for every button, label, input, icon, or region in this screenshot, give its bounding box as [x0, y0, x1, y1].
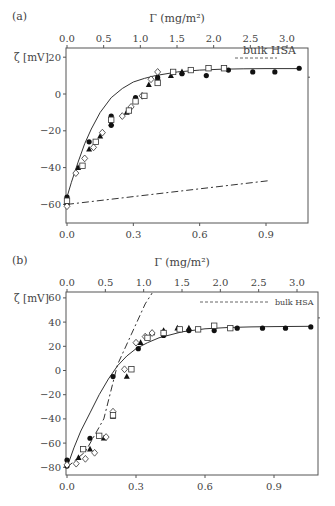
marker-open-diamond: [122, 366, 128, 373]
x-bottom-tick-label: 0.0: [59, 481, 75, 492]
x-top-tick-label: 1.0: [132, 33, 148, 44]
marker-open-square: [212, 323, 217, 328]
bulk-HSA-reference-line: [67, 293, 152, 467]
x-top-tick-label: 1.5: [174, 277, 190, 288]
marker-filled-triangle: [124, 373, 130, 379]
marker-filled-circle: [204, 73, 209, 78]
marker-open-diamond: [133, 339, 139, 346]
marker-open-square: [126, 108, 131, 113]
marker-filled-circle: [308, 324, 313, 329]
marker-open-diamond: [92, 449, 98, 456]
y-tick-label: 20: [48, 341, 61, 352]
x-bottom-tick-label: 0.0: [59, 229, 75, 240]
x-top-tick-label: 3.0: [289, 277, 305, 288]
marker-open-square: [145, 335, 150, 340]
marker-filled-circle: [110, 374, 115, 379]
marker-filled-circle: [87, 436, 92, 441]
marker-filled-circle: [250, 69, 255, 74]
marker-open-square: [221, 66, 226, 71]
y-tick-label: −60: [40, 438, 61, 449]
x-top-tick-label: 1.5: [169, 33, 185, 44]
legend-label: bulk HSA: [275, 298, 314, 307]
x-top-tick-label: 0.5: [96, 33, 112, 44]
y-axis-label: ζ [mV]: [14, 51, 49, 63]
marker-open-square: [195, 327, 200, 332]
marker-open-square: [80, 163, 85, 168]
y-tick-label: 0: [55, 89, 61, 100]
marker-filled-circle: [235, 326, 240, 331]
chart-panel-0: (a)Γ (mg/m²)ζ [mV]200−20−40−600.00.30.60…: [12, 10, 310, 240]
marker-filled-triangle: [186, 325, 192, 331]
top-axis-title: Γ (mg/m²): [149, 12, 205, 25]
marker-open-diamond: [91, 144, 97, 151]
x-top-tick-label: 0.5: [97, 277, 113, 288]
legend-label: bulk HSA: [243, 44, 297, 57]
marker-open-square: [109, 117, 114, 122]
y-tick-label: −20: [40, 125, 61, 136]
x-bottom-tick-label: 0.9: [258, 229, 274, 240]
x-bottom-tick-label: 0.6: [192, 229, 208, 240]
marker-open-square: [188, 67, 193, 72]
marker-open-square: [206, 66, 211, 71]
y-tick-label: −40: [40, 413, 61, 424]
marker-open-square: [170, 69, 175, 74]
marker-open-square: [64, 198, 69, 203]
marker-filled-circle: [272, 69, 277, 74]
y-tick-label: −60: [40, 199, 61, 210]
marker-open-square: [110, 413, 115, 418]
marker-open-square: [97, 433, 102, 438]
y-tick-label: 0: [55, 365, 61, 376]
marker-filled-circle: [136, 346, 141, 351]
marker-open-square: [161, 330, 166, 335]
x-top-tick-label: 0.0: [59, 277, 75, 288]
chart-panel-1: (b)Γ (mg/m²)ζ [mV]6040200−20−40−60−800.0…: [12, 254, 320, 492]
marker-filled-triangle: [87, 446, 93, 452]
y-tick-label: −20: [40, 389, 61, 400]
model-fit-line: [67, 326, 311, 467]
marker-filled-circle: [283, 326, 288, 331]
marker-open-square: [80, 446, 85, 451]
marker-open-square: [93, 139, 98, 144]
marker-open-square: [142, 93, 147, 98]
y-tick-label: −80: [40, 462, 61, 473]
marker-open-square: [155, 80, 160, 85]
marker-open-square: [177, 327, 182, 332]
x-bottom-tick-label: 0.6: [197, 481, 213, 492]
y-axis-label: ζ [mV]: [14, 292, 49, 304]
y-tick-label: −40: [40, 162, 61, 173]
bulk-HSA-reference-line: [67, 181, 270, 205]
figure: (a)Γ (mg/m²)ζ [mV]200−20−40−600.00.30.60…: [0, 0, 335, 506]
x-bottom-tick-label: 0.9: [266, 481, 282, 492]
y-tick-label: 20: [48, 52, 61, 63]
panel-label: (b): [12, 254, 28, 267]
marker-open-diamond: [82, 455, 88, 462]
x-top-tick-label: 2.5: [251, 277, 267, 288]
x-top-tick-label: 1.0: [136, 277, 152, 288]
marker-open-square: [133, 99, 138, 104]
top-axis-title: Γ (mg/m²): [154, 256, 210, 269]
x-top-tick-label: 0.0: [59, 33, 75, 44]
marker-open-diamond: [73, 460, 79, 467]
marker-filled-circle: [297, 66, 302, 71]
y-tick-label: 40: [48, 317, 61, 328]
x-top-tick-label: 2.0: [206, 33, 222, 44]
panel-label: (a): [12, 10, 27, 23]
marker-open-diamond: [155, 69, 161, 76]
x-top-tick-label: 2.5: [242, 33, 258, 44]
y-tick-label: 60: [48, 292, 61, 303]
marker-filled-circle: [260, 326, 265, 331]
x-bottom-tick-label: 0.3: [128, 481, 144, 492]
x-bottom-tick-label: 0.3: [125, 229, 141, 240]
plot-frame: [66, 292, 318, 475]
marker-open-diamond: [82, 155, 88, 162]
x-top-tick-label: 3.0: [279, 33, 295, 44]
marker-open-square: [129, 367, 134, 372]
marker-filled-circle: [87, 139, 92, 144]
x-top-tick-label: 2.0: [212, 277, 228, 288]
marker-open-square: [228, 325, 233, 330]
